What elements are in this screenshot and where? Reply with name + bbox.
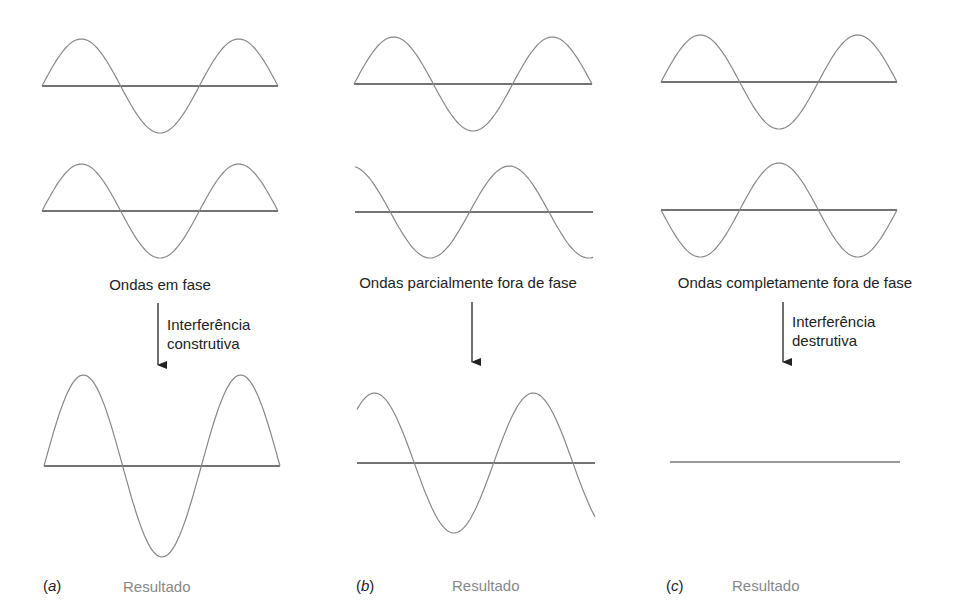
panel-a-description: Ondas em fase [109,276,211,294]
panel-c-arrow-label-line1: Interferência [792,313,875,331]
panel-b-label: (b) [356,577,374,595]
panel-a-arrow-label-line1: Interferência [167,316,250,334]
paren-close: ) [369,577,374,594]
panel-a-arrow-label-line2: construtiva [167,335,240,353]
panel-c-description: Ondas completamente fora de fase [678,274,912,292]
panel-c-result-label: Resultado [732,577,800,595]
panel-b-description: Ondas parcialmente fora de fase [359,274,577,292]
panel-a-label: (a) [43,577,61,595]
paren-close: ) [679,577,684,594]
panel-a-waves [42,39,280,557]
panel-b-result-label: Resultado [452,577,520,595]
panel-c-waves [661,35,900,462]
paren-close: ) [56,577,61,594]
panel-c-arrow-label-line2: destrutiva [792,332,857,350]
panel-letter: c [671,577,679,594]
panel-c-label: (c) [666,577,684,595]
panel-a-result-label: Resultado [123,578,191,596]
interference-diagram [0,0,955,612]
